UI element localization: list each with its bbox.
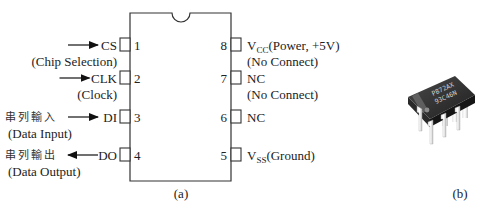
pin-number: 8 [221,38,228,53]
pin-cjk-label: 串列輸出 [5,148,57,162]
pin-7: 7NC(No Connect) [221,71,319,102]
chip-photo: P872AX 93C46N [408,76,475,144]
pin-pad [231,110,241,123]
right-pin-group: 8VCC(Power, +5V)(No Connect)7NC(No Conne… [221,38,340,165]
pin-description: (Clock) [77,87,117,102]
pin-pad [120,148,130,161]
pin-name: DI [103,110,117,125]
diagram-canvas: 1CS(Chip Selection)2CLK(Clock)3DI串列輸入(Da… [0,0,498,207]
pin-name: VSS(Ground) [247,148,315,165]
pin-number: 7 [221,71,228,86]
pin-5: 5VSS(Ground) [221,148,315,165]
left-pin-group: 1CS(Chip Selection)2CLK(Clock)3DI串列輸入(Da… [5,38,141,179]
pin-description: (Chip Selection) [31,54,117,69]
pin-name: CLK [91,71,118,86]
pin-description: (Data Input) [8,126,72,141]
pin-description: (No Connect) [247,54,318,69]
pin-number: 5 [221,148,228,163]
pin-description: (No Connect) [247,87,318,102]
pin-pad [231,38,241,51]
pin-2-clk: 2CLK(Clock) [60,71,141,102]
pin-pad [231,148,241,161]
pin-6: 6NC [221,110,266,125]
pin-name: CS [101,38,117,53]
figure-a-caption: (a) [174,186,188,201]
pin-4-do: 4DO串列輸出(Data Output) [5,148,141,179]
pin-pad [120,110,130,123]
pin-name: NC [247,110,265,125]
pin-number: 3 [134,110,141,125]
pin-number: 2 [134,71,141,86]
pin-pad [120,71,130,84]
pin-number: 4 [134,148,141,163]
pin-8: 8VCC(Power, +5V)(No Connect) [221,38,340,69]
pin-description: (Data Output) [8,164,81,179]
pin-pad [120,38,130,51]
pin-3-di: 3DI串列輸入(Data Input) [5,110,141,141]
pin-pad [231,71,241,84]
ic-package-outline [130,13,231,181]
pin-cjk-label: 串列輸入 [5,110,57,124]
pin-name: VCC(Power, +5V) [247,38,339,55]
figure-b-caption: (b) [452,186,467,201]
pin-number: 6 [221,110,228,125]
pin-name: DO [98,148,117,163]
pin-number: 1 [134,38,141,53]
pin-1-cs: 1CS(Chip Selection) [31,38,140,69]
pin-name: NC [247,71,265,86]
